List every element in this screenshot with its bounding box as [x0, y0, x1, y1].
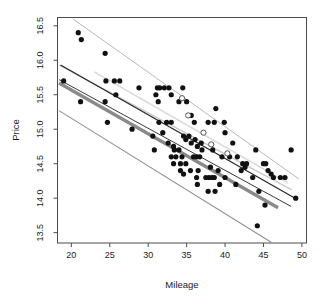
- data-point: [78, 99, 83, 104]
- data-point: [212, 189, 217, 194]
- data-point: [180, 85, 185, 90]
- data-point: [171, 161, 176, 166]
- data-point: [210, 147, 215, 152]
- data-point: [239, 168, 244, 173]
- y-tick-label: 15.5: [35, 86, 45, 104]
- data-point: [194, 175, 199, 180]
- data-point: [199, 147, 204, 152]
- x-tick-label: 30: [143, 250, 153, 260]
- data-point: [197, 154, 202, 159]
- data-point: [160, 130, 165, 135]
- y-tick-label: 15.0: [35, 120, 45, 138]
- open-data-point: [225, 151, 230, 156]
- y-tick-label: 14.5: [35, 155, 45, 173]
- chart-canvas: 13.514.014.515.015.516.016.5 20253035404…: [0, 0, 330, 306]
- data-point: [173, 154, 178, 159]
- data-point: [255, 223, 260, 228]
- data-point: [76, 30, 81, 35]
- data-point: [206, 189, 211, 194]
- data-point: [213, 106, 218, 111]
- data-point: [186, 134, 191, 139]
- data-point: [105, 120, 110, 125]
- data-point: [103, 78, 108, 83]
- data-point: [293, 196, 298, 201]
- data-point: [244, 161, 249, 166]
- data-point: [271, 175, 276, 180]
- data-point: [222, 120, 227, 125]
- data-point: [199, 140, 204, 145]
- data-point: [103, 51, 108, 56]
- data-point: [233, 182, 238, 187]
- data-point: [178, 161, 183, 166]
- x-axis-label: Mileage: [165, 279, 198, 290]
- scatter-plot-figure: 13.514.014.515.015.516.016.5 20253035404…: [0, 0, 330, 306]
- data-point: [230, 140, 235, 145]
- data-point: [192, 120, 197, 125]
- data-point: [172, 147, 177, 152]
- data-point: [169, 92, 174, 97]
- data-point: [195, 182, 200, 187]
- y-axis-label: Price: [10, 119, 21, 141]
- chart-background: [0, 0, 330, 306]
- x-tick-label: 40: [220, 250, 230, 260]
- data-point: [150, 134, 155, 139]
- open-data-point: [209, 142, 214, 147]
- data-point: [61, 78, 66, 83]
- data-point: [157, 85, 162, 90]
- data-point: [262, 202, 267, 207]
- data-point: [256, 189, 261, 194]
- y-tick-label: 16.5: [35, 17, 45, 35]
- data-point: [212, 175, 217, 180]
- data-point: [166, 140, 171, 145]
- data-point: [289, 147, 294, 152]
- open-data-point: [186, 113, 191, 118]
- data-point: [216, 168, 221, 173]
- data-point: [162, 85, 167, 90]
- data-point: [176, 147, 181, 152]
- data-point: [217, 182, 222, 187]
- data-point: [250, 175, 255, 180]
- data-point: [166, 85, 171, 90]
- data-point: [164, 120, 169, 125]
- data-point: [192, 137, 197, 142]
- data-point: [156, 120, 161, 125]
- x-tick-label: 35: [182, 250, 192, 260]
- data-point: [117, 78, 122, 83]
- data-point: [156, 99, 161, 104]
- data-point: [219, 154, 224, 159]
- data-point: [183, 161, 188, 166]
- data-point: [103, 99, 108, 104]
- x-tick-label: 45: [258, 250, 268, 260]
- x-tick-label: 50: [297, 250, 307, 260]
- data-point: [253, 147, 258, 152]
- data-point: [179, 154, 184, 159]
- data-point: [184, 99, 189, 104]
- data-point: [212, 120, 217, 125]
- open-data-point: [179, 96, 184, 101]
- data-point: [136, 85, 141, 90]
- open-data-point: [201, 130, 206, 135]
- data-point: [113, 92, 118, 97]
- data-point: [112, 78, 117, 83]
- data-point: [208, 165, 213, 170]
- data-point: [181, 134, 186, 139]
- data-point: [79, 37, 84, 42]
- x-tick-label: 25: [105, 250, 115, 260]
- x-tick-label: 20: [66, 250, 76, 260]
- data-point: [169, 120, 174, 125]
- data-point: [153, 92, 158, 97]
- y-tick-label: 14.0: [35, 189, 45, 207]
- data-point: [278, 175, 283, 180]
- data-point: [178, 168, 183, 173]
- data-point: [222, 175, 227, 180]
- data-point: [235, 154, 240, 159]
- y-tick-label: 13.5: [35, 224, 45, 242]
- y-tick-label: 16.0: [35, 51, 45, 69]
- data-point: [129, 127, 134, 132]
- data-point: [222, 130, 227, 135]
- data-point: [263, 161, 268, 166]
- data-point: [188, 168, 193, 173]
- data-point: [196, 168, 201, 173]
- data-point: [282, 175, 287, 180]
- data-point: [152, 147, 157, 152]
